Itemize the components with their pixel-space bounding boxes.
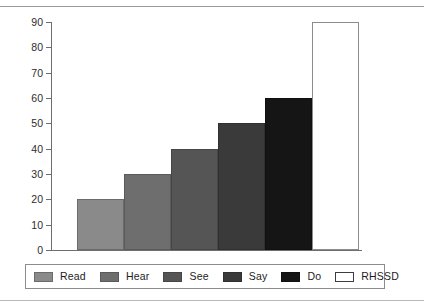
bar-hear[interactable] xyxy=(124,174,171,250)
legend-swatch-icon xyxy=(100,272,119,282)
y-axis-tick-label: 80 xyxy=(10,42,43,53)
legend-label: Read xyxy=(60,271,86,282)
legend-item-rhssd[interactable]: RHSSD xyxy=(335,271,399,282)
legend-item-read[interactable]: Read xyxy=(34,271,86,282)
y-axis-tick-label: 50 xyxy=(10,118,43,129)
bar-say[interactable] xyxy=(218,123,265,250)
bar-rhssd[interactable] xyxy=(312,22,359,250)
y-axis-tick-label: 20 xyxy=(10,194,43,205)
bar-do[interactable] xyxy=(265,98,312,250)
legend-swatch-icon xyxy=(335,272,354,282)
y-axis-tick-label: 90 xyxy=(10,17,43,28)
legend-label: RHSSD xyxy=(361,271,399,282)
legend-item-do[interactable]: Do xyxy=(281,271,321,282)
bar-see[interactable] xyxy=(171,149,218,250)
legend-label: Say xyxy=(249,271,268,282)
y-axis-tick-label: 30 xyxy=(10,169,43,180)
chart-legend: ReadHearSeeSayDoRHSSD xyxy=(25,264,385,289)
bar-chart-plot-area: 0102030405060708090 xyxy=(0,0,424,262)
legend-label: Do xyxy=(307,271,321,282)
bar-series xyxy=(51,20,362,250)
x-axis-line xyxy=(51,250,362,251)
legend-item-hear[interactable]: Hear xyxy=(100,271,150,282)
legend-item-say[interactable]: Say xyxy=(223,271,268,282)
y-axis-tick-label: 60 xyxy=(10,93,43,104)
y-axis-tick-label: 70 xyxy=(10,68,43,79)
legend-label: Hear xyxy=(126,271,150,282)
y-axis-tick-mark xyxy=(46,250,51,251)
legend-swatch-icon xyxy=(34,272,53,282)
y-axis-tick-label: 10 xyxy=(10,220,43,231)
bar-read[interactable] xyxy=(77,199,124,250)
legend-swatch-icon xyxy=(163,272,182,282)
legend-swatch-icon xyxy=(281,272,300,282)
legend-item-see[interactable]: See xyxy=(163,271,208,282)
legend-swatch-icon xyxy=(223,272,242,282)
legend-label: See xyxy=(189,271,208,282)
bottom-divider-rule xyxy=(0,300,424,301)
y-axis-tick-label: 0 xyxy=(10,245,43,256)
y-axis-tick-label: 40 xyxy=(10,144,43,155)
